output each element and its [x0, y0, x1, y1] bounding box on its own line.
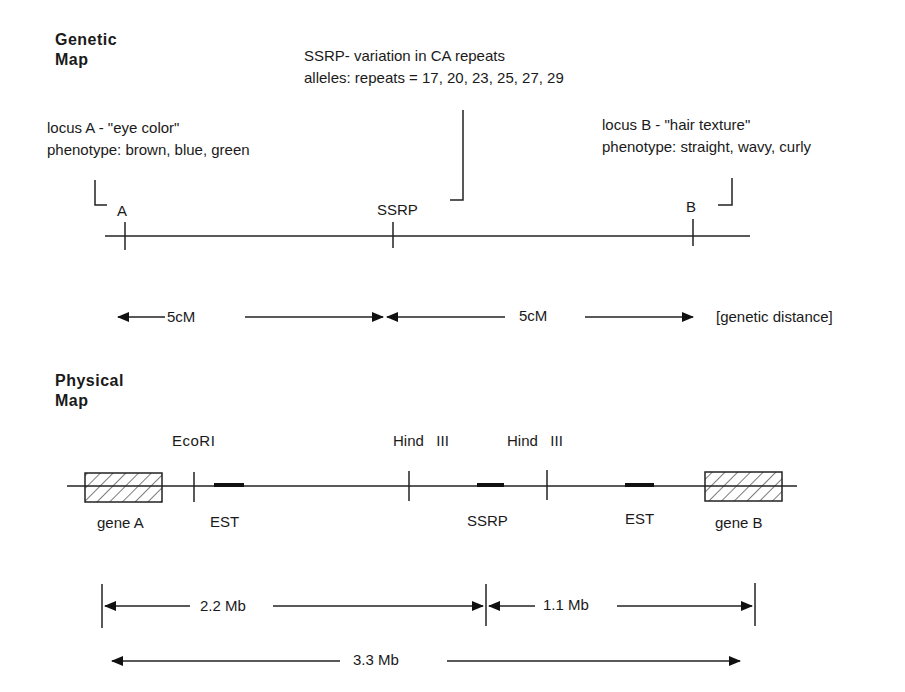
site-label-hindiii-1: Hind III: [393, 432, 449, 449]
feature-label-gene-a: gene A: [97, 514, 144, 531]
ssrp-note-line2: alleles: repeats = 17, 20, 23, 25, 27, 2…: [304, 67, 564, 89]
marker-label-a: A: [117, 202, 127, 219]
diagram-graphics: [0, 0, 905, 692]
locus-b-note-line2: phenotype: straight, wavy, curly: [602, 136, 811, 158]
site-label-ecori: EcoRI: [172, 432, 215, 449]
locus-b-bracket: [718, 178, 732, 205]
physical-distance-label-2-2mb: 2.2 Mb: [200, 597, 246, 614]
marker-label-b: B: [686, 198, 696, 215]
gene-b-box: [705, 472, 782, 501]
genetic-map-title: Genetic Map: [55, 30, 117, 70]
physical-map-title: Physical Map: [55, 371, 124, 411]
physical-map-title-line1: Physical: [55, 371, 124, 391]
locus-b-note-line1: locus B - "hair texture": [602, 114, 811, 136]
locus-a-note-line2: phenotype: brown, blue, green: [47, 139, 250, 161]
feature-label-gene-b: gene B: [715, 514, 763, 531]
marker-label-ssrp: SSRP: [377, 201, 418, 218]
genetic-distance-label-1: 5cM: [167, 308, 195, 325]
site-label-hindiii-2: Hind III: [507, 432, 563, 449]
physical-distance-label-1-1mb: 1.1 Mb: [543, 596, 589, 613]
locus-a-note: locus A - "eye color" phenotype: brown, …: [47, 117, 250, 161]
locus-b-note: locus B - "hair texture" phenotype: stra…: [602, 114, 811, 158]
locus-a-note-line1: locus A - "eye color": [47, 117, 250, 139]
gene-a-box: [85, 473, 162, 502]
physical-map-title-line2: Map: [55, 391, 124, 411]
physical-distance-label-3-3mb: 3.3 Mb: [353, 651, 399, 668]
genetic-map-title-line1: Genetic: [55, 30, 117, 50]
locus-a-bracket: [95, 180, 107, 205]
genetic-distance-label-2: 5cM: [519, 307, 547, 324]
feature-label-ssrp: SSRP: [467, 512, 508, 529]
ssrp-bracket: [450, 110, 463, 200]
ssrp-note: SSRP- variation in CA repeats alleles: r…: [304, 45, 564, 89]
genetic-distance-caption: [genetic distance]: [716, 308, 833, 325]
genetic-map-title-line2: Map: [55, 50, 117, 70]
feature-label-est-2: EST: [625, 510, 654, 527]
feature-label-est-1: EST: [210, 513, 239, 530]
ssrp-note-line1: SSRP- variation in CA repeats: [304, 45, 564, 67]
